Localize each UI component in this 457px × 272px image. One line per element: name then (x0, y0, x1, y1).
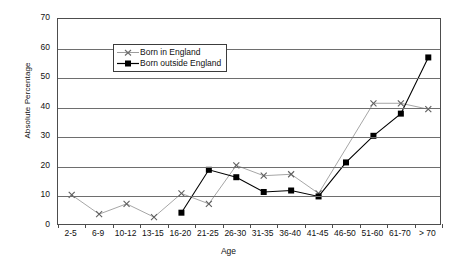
data-point-marker (425, 54, 431, 60)
x-axis-tick-label: 16-20 (167, 228, 194, 238)
gridline (58, 167, 440, 168)
chart-legend: Born in England Born outside England (113, 44, 227, 72)
x-axis-tick-label: 26-30 (222, 228, 249, 238)
data-point-marker (288, 188, 294, 194)
x-axis-tick-label: 46-50 (331, 228, 358, 238)
y-axis-tick-label: 10 (26, 189, 50, 199)
data-point-marker (178, 210, 184, 216)
x-axis-tick-label: 13-15 (139, 228, 166, 238)
y-axis-tick-label: 70 (26, 12, 50, 22)
legend-marker-x-icon (117, 47, 139, 58)
y-axis-tick-label: 30 (26, 130, 50, 140)
series-line (72, 103, 429, 217)
gridline (58, 137, 440, 138)
y-axis-tick-label: 20 (26, 160, 50, 170)
x-axis-tick-labels: 2-56-910-1213-1516-2021-2526-3031-3536-4… (57, 228, 441, 242)
legend-label: Born in England (139, 47, 201, 58)
x-axis-tick-label: 31-35 (249, 228, 276, 238)
gridline (58, 196, 440, 197)
y-axis-tick-label: 0 (26, 219, 50, 229)
x-axis-tick-label: 6-9 (84, 228, 111, 238)
line-chart: Absolute Percentage 706050403020100 2-56… (0, 0, 457, 272)
series-line (181, 57, 428, 212)
data-point-marker (343, 159, 349, 165)
x-axis-tick (442, 224, 443, 228)
x-axis-tick-label: 61-70 (386, 228, 413, 238)
data-point-marker (96, 211, 102, 217)
x-axis-tick-label: 41-45 (304, 228, 331, 238)
x-axis-tick-label: 21-25 (194, 228, 221, 238)
y-axis-tick-label: 50 (26, 71, 50, 81)
y-axis-tick-label: 60 (26, 42, 50, 52)
data-point-marker (233, 174, 239, 180)
data-point-marker (261, 189, 267, 195)
x-axis-tick-label: 2-5 (57, 228, 84, 238)
x-axis-tick-label: 51-60 (359, 228, 386, 238)
legend-label: Born outside England (139, 58, 221, 69)
legend-item-born-in-england: Born in England (117, 47, 221, 58)
legend-marker-square-icon (117, 58, 139, 69)
legend-item-born-outside-england: Born outside England (117, 58, 221, 69)
data-point-marker (124, 201, 130, 207)
x-axis-tick-label: > 70 (414, 228, 441, 238)
x-axis-tick-label: 36-40 (276, 228, 303, 238)
y-axis-tick-labels: 706050403020100 (26, 0, 50, 272)
gridline (58, 108, 440, 109)
gridline (58, 78, 440, 79)
x-axis-tick-label: 10-12 (112, 228, 139, 238)
x-axis-title: Age (0, 246, 457, 256)
data-point-marker (398, 111, 404, 117)
y-axis-tick-label: 40 (26, 101, 50, 111)
data-point-marker (206, 201, 212, 207)
data-point-marker (151, 214, 157, 220)
